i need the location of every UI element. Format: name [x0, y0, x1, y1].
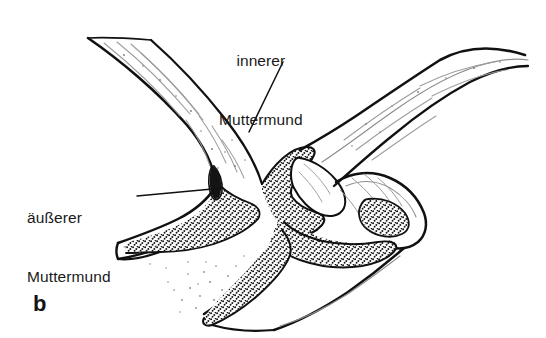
lower-branch-dark-band-fill [203, 230, 290, 325]
label-aeusserer-muttermund-line1: äußerer [27, 208, 111, 228]
label-innerer-muttermund-line1: innerer [219, 51, 303, 71]
lower-branch-tip-line [212, 325, 274, 331]
drawing-ink [88, 38, 528, 331]
label-innerer-muttermund-line2: Muttermund [219, 110, 303, 130]
figure-container: innerer Muttermund äußerer Muttermund b [0, 0, 546, 338]
left-branch-tip [88, 38, 151, 40]
right-pocket-fill [360, 200, 408, 236]
label-aeusserer-muttermund-line2: Muttermund [27, 267, 111, 287]
panel-letter: b [33, 293, 46, 315]
label-innerer-muttermund: innerer Muttermund [219, 11, 303, 170]
right-branch-outer-contour [300, 49, 525, 150]
